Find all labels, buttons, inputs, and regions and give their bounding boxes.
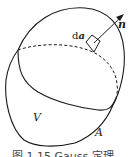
gauss-theorem-diagram: [0, 0, 131, 157]
cross-section-front-curve: [18, 50, 116, 110]
area-element-label: da: [72, 31, 85, 41]
area-element-patch: [86, 35, 100, 52]
figure-caption: 图 1.15 Gauss 定理: [12, 147, 114, 157]
volume-label: V: [33, 112, 41, 123]
cross-section-hidden-curve: [18, 45, 117, 98]
normal-vector-arrow: [94, 17, 121, 43]
surface-label: A: [95, 127, 103, 138]
normal-vector-label: n: [118, 19, 126, 30]
